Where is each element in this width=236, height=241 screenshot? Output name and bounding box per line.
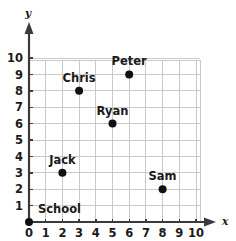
- data-point-dot: [109, 120, 117, 128]
- data-point-label: Ryan: [97, 104, 129, 118]
- data-point-label: Chris: [63, 71, 96, 85]
- x-tick-label: 7: [142, 226, 150, 240]
- y-axis-label: y: [24, 7, 32, 19]
- data-point-dot: [125, 70, 133, 78]
- y-tick-label: 8: [15, 84, 23, 98]
- y-tick-label: 6: [15, 117, 23, 131]
- x-axis-label: x: [221, 215, 229, 227]
- y-tick-label: 3: [15, 166, 23, 180]
- x-tick-label: 0: [25, 226, 33, 240]
- data-point-label: Jack: [48, 153, 76, 167]
- x-tick-label: 8: [159, 226, 167, 240]
- y-tick-label: 9: [15, 68, 23, 82]
- x-tick-label: 1: [42, 226, 50, 240]
- coordinate-plane-chart: 01234567891012345678910 SchoolJackChrisR…: [0, 0, 236, 241]
- x-tick-label: 5: [108, 226, 116, 240]
- y-tick-label: 5: [15, 133, 23, 147]
- x-tick-label: 3: [75, 226, 83, 240]
- data-point-dot: [159, 185, 167, 193]
- data-point-label: Sam: [149, 169, 177, 183]
- y-tick-label: 7: [15, 100, 23, 114]
- x-tick-label: 10: [188, 226, 204, 240]
- y-tick-label: 4: [15, 150, 23, 164]
- data-point-dot: [25, 218, 33, 226]
- x-tick-label: 6: [125, 226, 133, 240]
- plot-svg: 01234567891012345678910 SchoolJackChrisR…: [0, 0, 236, 241]
- x-tick-label: 4: [92, 226, 100, 240]
- chart-background: [0, 0, 236, 241]
- y-tick-label: 2: [15, 182, 23, 196]
- data-point-label: Peter: [112, 54, 148, 68]
- data-point-dot: [58, 169, 66, 177]
- data-point-dot: [75, 87, 83, 95]
- y-tick-label: 10: [7, 51, 23, 65]
- x-tick-label: 2: [58, 226, 66, 240]
- data-point-label: School: [38, 202, 81, 216]
- y-tick-label: 1: [15, 199, 23, 213]
- x-tick-label: 9: [175, 226, 183, 240]
